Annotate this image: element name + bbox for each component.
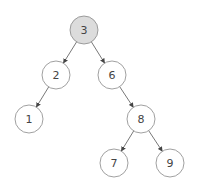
tree-node-1: 1 bbox=[15, 105, 43, 133]
tree-node-7: 7 bbox=[100, 149, 128, 177]
tree-diagram: 3261879 bbox=[0, 0, 199, 188]
edge-3-6 bbox=[91, 42, 104, 63]
node-label: 2 bbox=[53, 69, 60, 82]
node-label: 9 bbox=[167, 157, 174, 170]
edge-8-9 bbox=[149, 131, 163, 152]
edge-2-1 bbox=[36, 87, 48, 107]
edge-8-7 bbox=[121, 131, 133, 151]
edge-6-8 bbox=[120, 87, 134, 108]
nodes: 3261879 bbox=[15, 16, 184, 177]
node-label: 1 bbox=[26, 113, 33, 126]
node-label: 6 bbox=[109, 69, 116, 82]
tree-node-3: 3 bbox=[70, 16, 98, 44]
node-label: 8 bbox=[138, 113, 145, 126]
edge-3-2 bbox=[63, 42, 76, 63]
tree-node-9: 9 bbox=[156, 149, 184, 177]
node-label: 3 bbox=[81, 24, 88, 37]
tree-node-2: 2 bbox=[42, 61, 70, 89]
tree-node-6: 6 bbox=[98, 61, 126, 89]
edges bbox=[36, 42, 162, 151]
tree-node-8: 8 bbox=[127, 105, 155, 133]
node-label: 7 bbox=[111, 157, 118, 170]
